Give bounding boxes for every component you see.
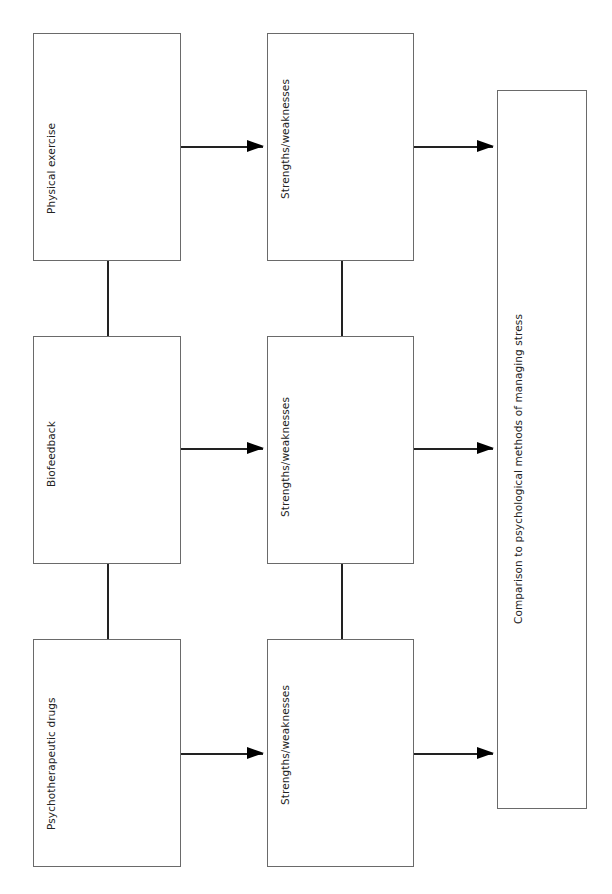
connector-line: [341, 261, 343, 336]
arrow-right: [414, 753, 493, 755]
connector-line: [341, 564, 343, 639]
method-box-physical-exercise: Physical exercise: [33, 33, 181, 261]
evaluation-box: Strengths/weaknesses: [267, 33, 414, 261]
evaluation-label: Strengths/weaknesses: [279, 79, 291, 199]
arrow-right: [181, 146, 263, 148]
evaluation-box: Strengths/weaknesses: [267, 639, 414, 867]
method-label: Biofeedback: [45, 421, 57, 487]
arrow-right: [414, 448, 493, 450]
method-box-biofeedback: Biofeedback: [33, 336, 181, 564]
outcome-box: Comparison to psychological methods of m…: [497, 90, 587, 809]
outcome-label: Comparison to psychological methods of m…: [512, 314, 524, 624]
method-label: Physical exercise: [45, 123, 57, 214]
connector-line: [107, 261, 109, 336]
evaluation-box: Strengths/weaknesses: [267, 336, 414, 564]
method-label: Psychotherapeutic drugs: [45, 697, 57, 830]
arrow-right: [181, 753, 263, 755]
method-box-psychotherapeutic-drugs: Psychotherapeutic drugs: [33, 639, 181, 867]
evaluation-label: Strengths/weaknesses: [279, 397, 291, 517]
arrow-right: [181, 448, 263, 450]
connector-line: [107, 564, 109, 639]
evaluation-label: Strengths/weaknesses: [279, 685, 291, 805]
arrow-right: [414, 146, 493, 148]
